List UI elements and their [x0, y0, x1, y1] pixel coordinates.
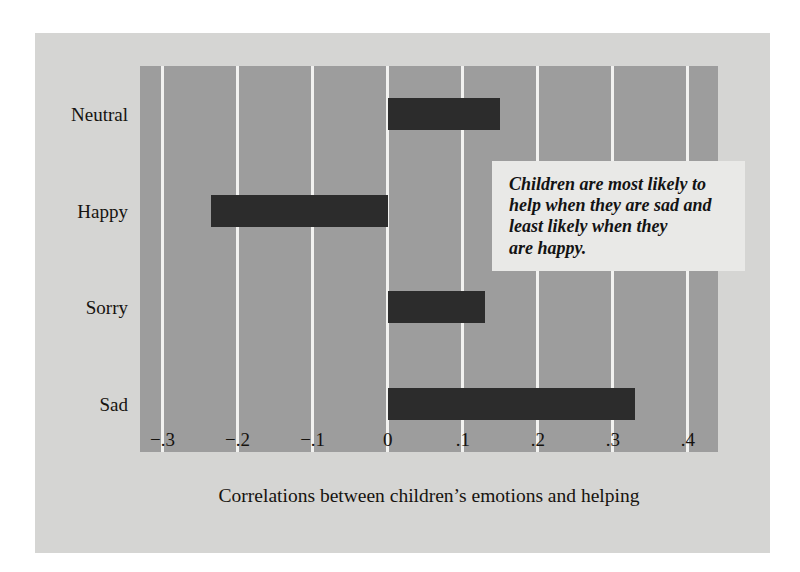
gridline-0	[161, 66, 164, 452]
x-tick-label-0: −.3	[150, 429, 175, 451]
annotation-callout: Children are most likely to help when th…	[492, 161, 745, 271]
bar-neutral	[388, 98, 501, 130]
x-axis-title: Correlations between children’s emotions…	[140, 485, 718, 507]
x-tick-label-4: .1	[456, 429, 470, 451]
x-tick-label-3: 0	[383, 429, 393, 451]
bar-happy	[211, 195, 387, 227]
x-tick-label-1: −.2	[225, 429, 250, 451]
x-tick-label-7: .4	[681, 429, 695, 451]
x-tick-label-6: .3	[606, 429, 620, 451]
annotation-text: Children are most likely to help when th…	[509, 174, 729, 259]
x-tick-label-5: .2	[531, 429, 545, 451]
figure-panel: NeutralHappySorrySad −.3−.2−.10.1.2.3.4 …	[35, 33, 770, 553]
category-label-happy: Happy	[0, 202, 128, 221]
category-label-sorry: Sorry	[0, 298, 128, 317]
annotation-line-3: least likely when they	[509, 216, 667, 236]
x-tick-label-2: −.1	[300, 429, 325, 451]
category-label-neutral: Neutral	[0, 105, 128, 124]
category-label-sad: Sad	[0, 395, 128, 414]
gridline-2	[311, 66, 314, 452]
bar-sad	[388, 388, 636, 420]
annotation-line-1: Children are most likely to	[509, 174, 706, 194]
bar-sorry	[388, 291, 486, 323]
annotation-line-2: help when they are sad and	[509, 195, 712, 215]
annotation-line-4: are happy.	[509, 238, 586, 258]
gridline-1	[236, 66, 239, 452]
